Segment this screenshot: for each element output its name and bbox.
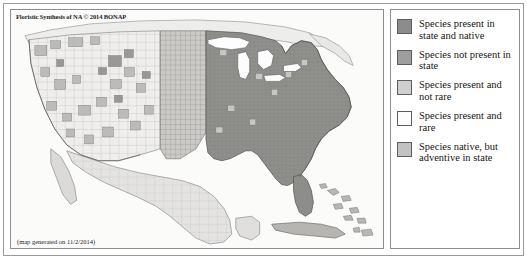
legend-swatch-present-and-native (397, 19, 412, 34)
map-generated-caption: (map generated on 11/2/2014) (16, 238, 97, 245)
legend-label-present-and-rare: Species present and rare (419, 110, 514, 133)
legend-item-present-not-rare[interactable]: Species present and not rare (397, 79, 514, 102)
legend-swatch-present-not-rare (397, 80, 412, 95)
legend-label-present-not-rare: Species present and not rare (419, 79, 514, 102)
legend-item-present-and-rare[interactable]: Species present and rare (397, 110, 514, 133)
legend-label-native-but-adventive: Species native, but adventive in state (419, 141, 514, 164)
legend-label-present-and-native: Species present in state and native (419, 18, 514, 41)
map-panel[interactable]: Floristic Synthesis of NA © 2014 BONAP (… (10, 9, 384, 249)
map-title-overlay: Floristic Synthesis of NA © 2014 BONAP (15, 12, 128, 21)
legend-item-not-present[interactable]: Species not present in state (397, 49, 514, 72)
legend-swatch-native-but-adventive (397, 142, 412, 157)
bonap-distribution-map-figure: Floristic Synthesis of NA © 2014 BONAP (… (0, 0, 527, 259)
north-america-county-map[interactable] (11, 10, 383, 248)
legend-swatch-not-present (397, 50, 412, 65)
legend-item-present-and-native[interactable]: Species present in state and native (397, 18, 514, 41)
great-plains-region[interactable] (160, 31, 208, 159)
legend-item-native-but-adventive[interactable]: Species native, but adventive in state (397, 141, 514, 164)
legend-panel: Species present in state and native Spec… (390, 9, 520, 249)
legend-swatch-present-and-rare (397, 111, 412, 126)
legend-label-not-present: Species not present in state (419, 49, 514, 72)
